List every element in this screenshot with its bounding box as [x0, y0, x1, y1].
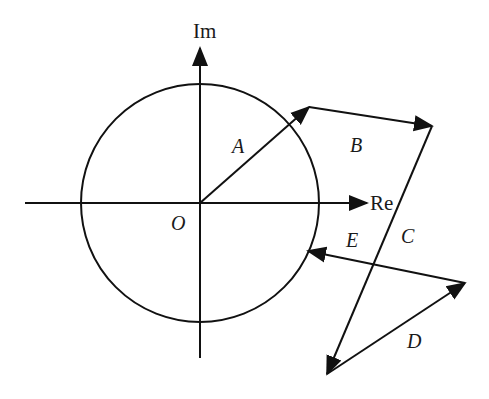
- vector-b: [309, 107, 432, 126]
- vector-a-label: A: [230, 135, 245, 157]
- real-axis-label: Re: [370, 191, 393, 215]
- vector-b-label: B: [350, 134, 362, 156]
- imag-axis-label: Im: [193, 19, 216, 43]
- phasor-diagram: Im Re O A B C D E: [0, 0, 489, 399]
- origin-label: O: [171, 212, 185, 234]
- vector-e-label: E: [345, 229, 358, 251]
- vector-d: [327, 283, 465, 374]
- vector-c-label: C: [401, 225, 415, 247]
- vector-e: [308, 251, 465, 283]
- vector-d-label: D: [406, 330, 422, 352]
- vector-a: [200, 107, 309, 203]
